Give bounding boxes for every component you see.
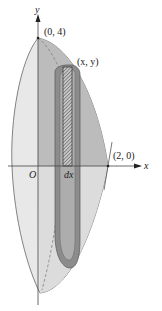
origin-label: O	[29, 169, 36, 180]
shell-top-label: (x, y)	[77, 56, 99, 68]
apex-point	[37, 37, 40, 40]
hatched-strip-dx	[63, 67, 72, 166]
x-axis-arrow-icon	[134, 164, 142, 169]
intercept-point	[107, 165, 110, 168]
x-axis-label: x	[143, 160, 149, 171]
apex-label: (0, 4)	[44, 26, 66, 38]
y-axis-label: y	[34, 4, 40, 15]
y-axis-arrow-icon	[36, 14, 41, 22]
shell-method-diagram: y (0, 4) (x, y) (2, 0) x O dx	[0, 0, 162, 311]
intercept-label: (2, 0)	[113, 150, 135, 162]
dx-label: dx	[64, 169, 74, 180]
